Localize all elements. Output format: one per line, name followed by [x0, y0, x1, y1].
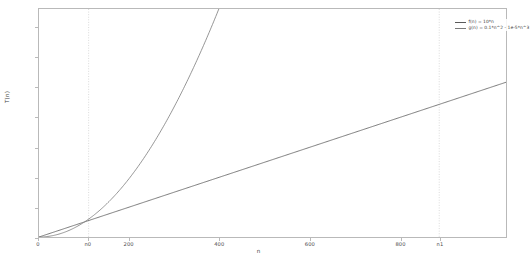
- x-tick-label: n1: [420, 241, 460, 247]
- chart-legend: f(n) = 10*n g(n) = 0.1*n^2 - 1e-5*n^3: [453, 19, 531, 31]
- x-axis-label: n: [0, 248, 517, 254]
- series-line-0: [39, 82, 506, 237]
- y-axis-label: T(n): [4, 91, 10, 103]
- x-tick-mark: [401, 238, 402, 241]
- legend-item: g(n) = 0.1*n^2 - 1e-5*n^3: [455, 26, 529, 30]
- x-tick-label: 200: [109, 241, 149, 247]
- x-tick-mark: [310, 238, 311, 241]
- legend-label-0: f(n) = 10*n: [469, 20, 494, 24]
- plot-area: f(n) = 10*n g(n) = 0.1*n^2 - 1e-5*n^3: [38, 8, 507, 238]
- x-tick-mark: [129, 238, 130, 241]
- x-tick-label: n0: [68, 241, 108, 247]
- legend-label-1: g(n) = 0.1*n^2 - 1e-5*n^3: [469, 26, 530, 30]
- x-tick-label: 600: [290, 241, 330, 247]
- x-tick-label: 400: [199, 241, 239, 247]
- legend-item: f(n) = 10*n: [455, 20, 529, 24]
- x-tick-mark: [38, 238, 39, 241]
- x-tick-mark: [88, 238, 89, 241]
- legend-line-swatch-1: [455, 28, 466, 29]
- x-tick-label: 0: [18, 241, 58, 247]
- series-paths: [39, 9, 506, 237]
- x-tick-mark: [440, 238, 441, 241]
- curves-svg: [39, 9, 506, 237]
- legend-line-swatch-0: [455, 22, 466, 23]
- series-line-1: [39, 9, 506, 237]
- x-tick-label: 800: [381, 241, 421, 247]
- x-tick-mark: [219, 238, 220, 241]
